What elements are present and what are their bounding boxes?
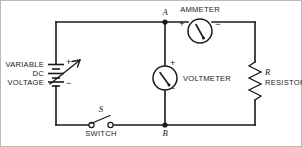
variable-arrow-shaft — [50, 60, 80, 84]
node-b-label: B — [162, 128, 168, 138]
switch-symbol-label: S — [99, 104, 104, 114]
resistor: R RESISTOR — [249, 62, 302, 100]
variable-dc-voltage-source: + − VARIABLE DC VOLTAGE — [5, 57, 80, 88]
node-b: B — [162, 122, 168, 138]
source-label-line1: VARIABLE — [5, 60, 44, 69]
switch-pole-right — [108, 122, 113, 127]
node-a-dot — [162, 19, 167, 24]
resistor-symbol-label: R — [264, 67, 271, 77]
node-a: A — [161, 7, 168, 25]
switch[interactable]: S SWITCH — [85, 104, 116, 138]
source-label-line3: VOLTAGE — [8, 78, 45, 87]
ammeter-minus-sign: − — [215, 19, 220, 29]
switch-label: SWITCH — [85, 129, 116, 138]
circuit-diagram: + − VARIABLE DC VOLTAGE S SWITCH A B — [0, 0, 302, 147]
node-b-dot — [162, 122, 167, 127]
resistor-zigzag — [249, 62, 261, 100]
ammeter-plus-sign: + — [179, 19, 184, 29]
source-label-line2: DC — [33, 69, 45, 78]
node-a-label: A — [161, 7, 168, 17]
resistor-label: RESISTOR — [265, 78, 302, 87]
voltmeter-plus-sign: + — [170, 58, 175, 68]
source-minus-sign: − — [66, 78, 71, 88]
source-plus-sign: + — [66, 57, 71, 67]
ammeter: + − AMMETER — [179, 5, 220, 43]
voltmeter-minus-sign: − — [170, 83, 175, 93]
voltmeter-label: VOLTMETER — [183, 74, 231, 83]
ammeter-needle-pivot — [202, 37, 205, 40]
ammeter-label: AMMETER — [180, 5, 220, 14]
switch-lever — [91, 116, 110, 124]
